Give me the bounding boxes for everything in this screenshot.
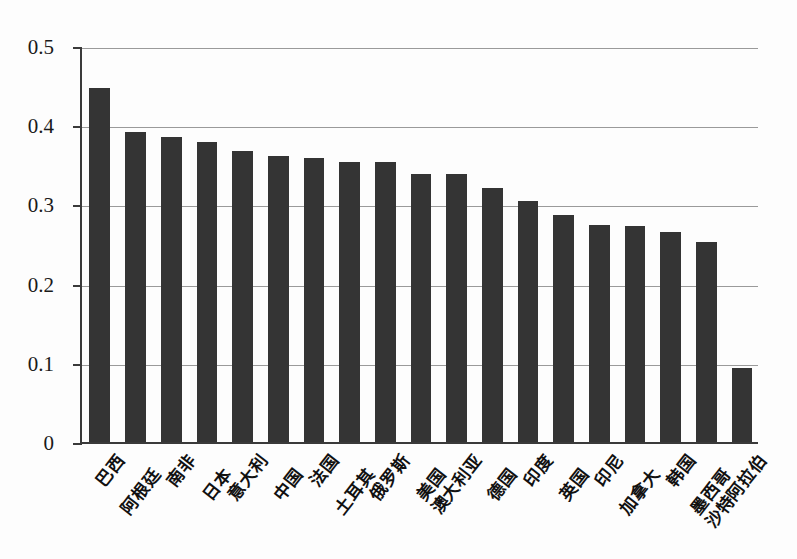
bar [161, 137, 182, 442]
x-axis-label: 韩国 [659, 448, 700, 491]
bar-chart: 0.50.40.30.20.10 巴西阿根廷南非日本意大利中国法国土耳其俄罗斯美… [0, 0, 797, 559]
bar [411, 174, 432, 442]
y-axis-tick [73, 285, 82, 287]
y-axis-tick [73, 47, 82, 49]
x-axis-category-labels: 巴西阿根廷南非日本意大利中国法国土耳其俄罗斯美国澳大利亚德国印度英国印尼加拿大韩… [80, 446, 758, 559]
bar [518, 201, 539, 442]
bar [625, 226, 646, 442]
bar [89, 88, 110, 442]
y-axis-tick [73, 364, 82, 366]
y-axis-tick-label: 0.5 [0, 37, 68, 58]
bar [375, 162, 396, 442]
x-axis-label: 德国 [481, 462, 522, 505]
bar [696, 242, 717, 442]
bar [304, 158, 325, 442]
y-axis-tick-label: 0 [0, 433, 68, 454]
x-axis-label: 南非 [160, 448, 201, 491]
x-axis-label: 印度 [516, 448, 557, 491]
x-axis-label: 英国 [552, 462, 593, 505]
y-axis-tick-label: 0.2 [0, 275, 68, 296]
bar [268, 156, 289, 442]
x-axis-label: 法国 [302, 448, 343, 491]
y-axis-tick-label: 0.4 [0, 116, 68, 137]
y-axis-tick-labels: 0.50.40.30.20.10 [0, 48, 68, 444]
y-axis-tick [73, 443, 82, 445]
x-axis-label: 印尼 [588, 448, 629, 491]
bar [197, 142, 218, 442]
bar [339, 162, 360, 442]
y-axis-tick [73, 126, 82, 128]
y-axis-tick-label: 0.1 [0, 354, 68, 375]
bars-layer [82, 48, 758, 442]
y-axis-tick-label: 0.3 [0, 195, 68, 216]
bar [589, 225, 610, 442]
x-axis-label: 中国 [267, 462, 308, 505]
x-axis-label: 巴西 [88, 448, 129, 491]
bar [482, 188, 503, 442]
bar [553, 215, 574, 442]
bar [660, 232, 681, 442]
bar [732, 368, 753, 442]
y-axis-tick [73, 205, 82, 207]
bar [125, 132, 146, 442]
bar [232, 151, 253, 442]
bar [446, 174, 467, 442]
plot-area [80, 48, 758, 444]
